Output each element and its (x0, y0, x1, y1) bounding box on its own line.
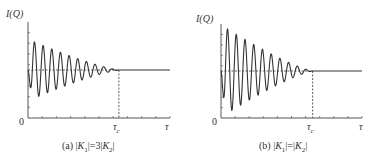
caption-relation: |=3| (88, 140, 103, 151)
caption-prefix: (a) | (62, 140, 78, 151)
k2-symbol: K (295, 140, 302, 151)
tau-c-label-a: τc (113, 121, 120, 135)
caption-b: (b) |K1|=|K2| (259, 140, 307, 154)
tau-c-subscript: c (311, 127, 314, 135)
caption-prefix: (b) | (259, 140, 275, 151)
origin-label-a: 0 (19, 116, 24, 127)
origin-label-b: 0 (212, 116, 217, 127)
caption-suffix: | (305, 140, 307, 151)
y-axis-label-b: I(Q) (196, 13, 213, 24)
plot-area-a (0, 0, 185, 160)
oscillation-curve (28, 42, 170, 96)
tau-c-label-b: τc (307, 121, 314, 135)
caption-a: (a) |K1|=3|K2| (62, 140, 115, 154)
y-axis-label-a: I(Q) (6, 8, 23, 19)
chart-panel-b: I(Q) 0 τc τ (b) |K1|=|K2| (185, 0, 370, 160)
x-axis-label-b: τ (359, 121, 363, 132)
k1-symbol: K (275, 140, 282, 151)
caption-relation: |=| (285, 140, 295, 151)
plot-area-b (185, 0, 370, 160)
chart-panel-a: I(Q) 0 τc τ (a) |K1|=3|K2| (0, 0, 185, 160)
tau-c-subscript: c (117, 127, 120, 135)
oscillation-curve (221, 29, 362, 110)
x-axis-label-a: τ (165, 121, 169, 132)
caption-suffix: | (113, 140, 115, 151)
